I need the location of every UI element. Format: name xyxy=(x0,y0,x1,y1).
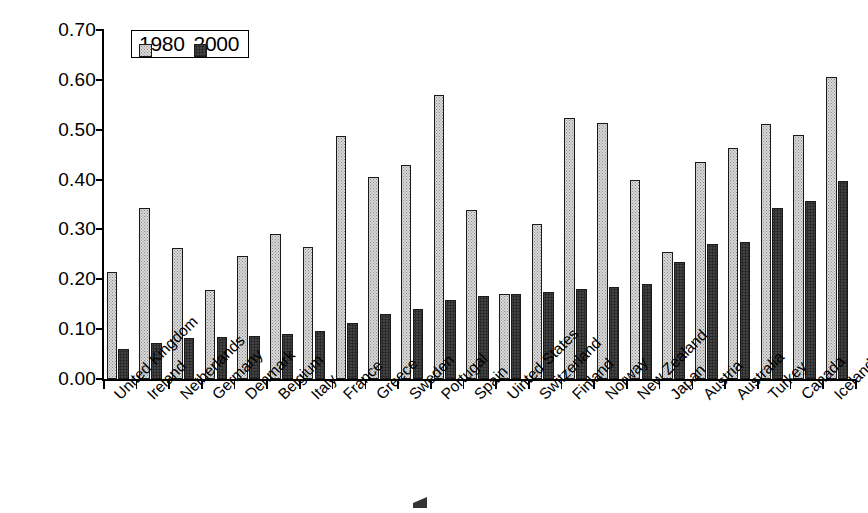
bar-2000 xyxy=(707,244,718,379)
bar-group xyxy=(561,30,594,379)
x-axis-category-label: Japan xyxy=(667,391,680,404)
x-axis-category-label: Spain xyxy=(471,391,484,404)
y-tick-label: 0.60 xyxy=(58,69,96,91)
x-tick-mark xyxy=(136,381,138,389)
bar-group xyxy=(790,30,823,379)
bar-group xyxy=(299,30,332,379)
x-tick-mark xyxy=(724,381,726,389)
bar-group xyxy=(659,30,692,379)
bar-1980 xyxy=(761,124,772,379)
x-axis-category-label: Turkey xyxy=(765,391,778,404)
bar-group xyxy=(757,30,790,379)
light-stipple-swatch xyxy=(139,44,152,57)
x-tick-mark xyxy=(332,381,334,389)
x-axis-category-label: Uinted States xyxy=(503,391,516,404)
y-axis-tick-labels: 0.000.100.200.300.400.500.600.70 xyxy=(0,0,96,513)
bar-group xyxy=(266,30,299,379)
plot-area xyxy=(103,30,855,379)
bar-2000 xyxy=(838,181,849,379)
x-tick-mark xyxy=(757,381,759,389)
x-tick-mark xyxy=(365,381,367,389)
x-axis-category-label: Australia xyxy=(732,391,745,404)
bar-2000 xyxy=(511,294,522,379)
bar-1980 xyxy=(401,165,412,379)
bar-group xyxy=(528,30,561,379)
y-tick-label: 0.70 xyxy=(58,19,96,41)
x-tick-mark xyxy=(659,381,661,389)
x-axis-category-label: Netherlands xyxy=(176,391,189,404)
x-tick-mark xyxy=(201,381,203,389)
bar-group xyxy=(103,30,136,379)
bar-1980 xyxy=(434,95,445,379)
bar-1980 xyxy=(826,77,837,379)
bar-1980 xyxy=(336,136,347,379)
x-tick-mark xyxy=(561,381,563,389)
x-axis-category-label: Denmark xyxy=(242,391,255,404)
y-tick-label: 0.50 xyxy=(58,119,96,141)
y-tick-label: 0.40 xyxy=(58,169,96,191)
x-tick-mark xyxy=(266,381,268,389)
x-axis-category-label: United Kingdom xyxy=(111,391,124,404)
chart-legend: 1980 2000 xyxy=(131,30,249,58)
bar-1980 xyxy=(368,177,379,379)
x-axis-category-label: Germany xyxy=(209,391,222,404)
bar-chart: 0.000.100.200.300.400.500.600.70 1980 20… xyxy=(0,0,868,513)
x-axis-category-label: France xyxy=(340,391,353,404)
bar-group xyxy=(397,30,430,379)
bar-1980 xyxy=(107,272,118,379)
bar-group xyxy=(463,30,496,379)
bar-group xyxy=(365,30,398,379)
bar-group xyxy=(593,30,626,379)
bar-1980 xyxy=(793,135,804,379)
y-tick-label: 0.00 xyxy=(58,368,96,390)
x-axis-category-label: Ireland xyxy=(144,391,157,404)
x-axis-category-label: Italy xyxy=(307,391,320,404)
x-tick-mark xyxy=(463,381,465,389)
x-axis-category-label: New Zealand xyxy=(634,391,647,404)
bar-group xyxy=(430,30,463,379)
x-axis-category-label: Sweden xyxy=(405,391,418,404)
bar-group xyxy=(136,30,169,379)
dark-stipple-swatch xyxy=(194,44,207,57)
bar-group xyxy=(201,30,234,379)
x-tick-mark xyxy=(692,381,694,389)
bar-1980 xyxy=(630,180,641,379)
x-tick-mark xyxy=(855,381,857,389)
x-axis-category-label: Belgium xyxy=(274,391,287,404)
x-tick-mark xyxy=(495,381,497,389)
y-tick-label: 0.20 xyxy=(58,268,96,290)
bar-group xyxy=(822,30,855,379)
x-axis-category-label: Canada xyxy=(798,391,811,404)
x-tick-mark xyxy=(397,381,399,389)
bar-group xyxy=(626,30,659,379)
page-artifact-mark xyxy=(413,497,427,508)
bar-2000 xyxy=(347,323,358,379)
x-tick-mark xyxy=(626,381,628,389)
bar-group xyxy=(234,30,267,379)
bar-2000 xyxy=(805,201,816,379)
x-tick-mark xyxy=(103,381,105,389)
x-tick-mark xyxy=(822,381,824,389)
x-tick-mark xyxy=(168,381,170,389)
legend-item-1980: 1980 xyxy=(139,33,185,54)
bar-group xyxy=(332,30,365,379)
x-axis-category-label: Norway xyxy=(601,391,614,404)
x-axis-category-label: Finland xyxy=(569,391,582,404)
x-axis-category-label: Austria xyxy=(699,391,712,404)
x-axis-category-label: Portugal xyxy=(438,391,451,404)
legend-item-2000: 2000 xyxy=(194,33,240,54)
bar-group xyxy=(495,30,528,379)
x-tick-mark xyxy=(299,381,301,389)
y-tick-label: 0.30 xyxy=(58,218,96,240)
bar-2000 xyxy=(740,242,751,379)
y-tick-label: 0.10 xyxy=(58,318,96,340)
x-axis-category-label: Greece xyxy=(373,391,386,404)
x-axis-category-label: Switzerland xyxy=(536,391,549,404)
x-tick-mark xyxy=(430,381,432,389)
x-tick-mark xyxy=(790,381,792,389)
bar-group xyxy=(724,30,757,379)
x-tick-mark xyxy=(528,381,530,389)
x-tick-mark xyxy=(593,381,595,389)
x-axis-category-label: Iceland xyxy=(830,391,843,404)
bar-1980 xyxy=(728,148,739,379)
